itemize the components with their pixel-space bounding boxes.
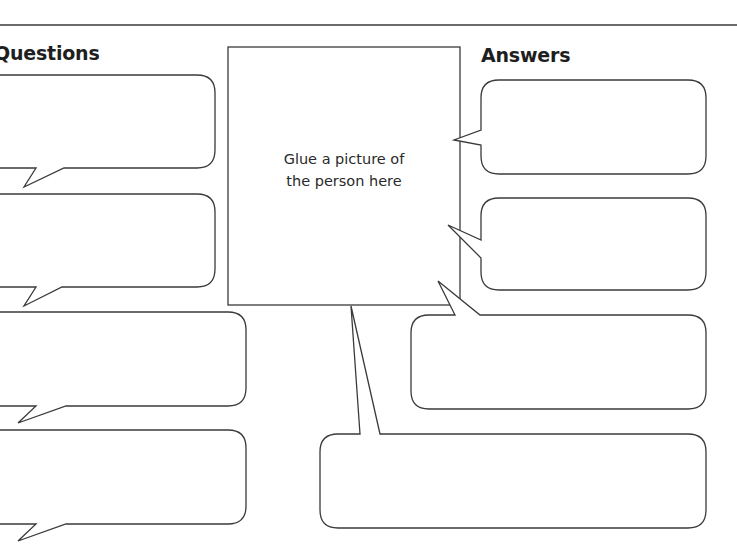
answers-heading: Answers [481,44,570,66]
question-3-area[interactable] [0,317,241,401]
picture-label-line-1: Glue a picture of [228,148,460,170]
picture-box-label: Glue a picture of the person here [228,148,460,192]
questions-heading: Questions [0,42,100,64]
answer-3-area[interactable] [416,320,701,404]
answer-4-area[interactable] [325,439,701,523]
answer-1-area[interactable] [486,85,701,169]
question-1-area[interactable] [0,80,210,164]
question-2-area[interactable] [0,199,210,283]
picture-label-line-2: the person here [228,170,460,192]
question-4-area[interactable] [0,435,241,519]
answer-2-area[interactable] [486,203,701,285]
